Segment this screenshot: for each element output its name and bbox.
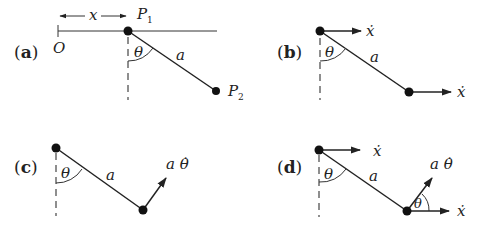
origin-label: O xyxy=(53,39,65,57)
top-velocity-label: ẋ xyxy=(373,142,382,160)
bottom-theta-arc xyxy=(422,194,429,211)
mass-bottom xyxy=(139,206,148,215)
length-label: a xyxy=(370,48,379,66)
bottom-x-velocity-label: ẋ xyxy=(457,202,466,220)
panel-a-label: (a) xyxy=(14,42,38,62)
panel-c-label: (c) xyxy=(14,157,38,177)
theta-label: θ xyxy=(324,165,333,183)
mass-bottom xyxy=(403,207,412,216)
mass-top xyxy=(315,146,324,155)
rod xyxy=(128,31,216,91)
panel-d-label: (d) xyxy=(277,157,302,177)
p1-label: P1 xyxy=(136,5,153,25)
p2-label: P2 xyxy=(227,82,244,102)
mass-bottom xyxy=(405,88,414,97)
rotational-velocity-arrow xyxy=(143,178,166,210)
rotational-velocity-label: a θ̇ xyxy=(166,155,189,173)
mass-p2 xyxy=(212,87,220,95)
mass-top xyxy=(316,27,325,36)
length-label: a xyxy=(176,46,185,64)
length-label: a xyxy=(106,166,115,184)
panel-c: (c) θ a a θ̇ xyxy=(14,144,189,217)
bottom-theta-label: θ xyxy=(414,196,422,211)
x-label: x xyxy=(89,6,98,24)
theta-label: θ xyxy=(134,43,143,61)
panel-a: (a) O x P1 θ a P2 xyxy=(14,5,244,102)
top-velocity-label: ẋ xyxy=(366,22,375,40)
rotational-velocity-label: a θ̇ xyxy=(430,155,453,173)
mass-top xyxy=(52,144,61,153)
panel-b: (b) θ a ẋ ẋ xyxy=(277,22,466,101)
theta-label: θ xyxy=(325,43,334,61)
theta-label: θ xyxy=(61,164,70,182)
pendulum-figure: (a) O x P1 θ a P2 (b) θ a ẋ ẋ xyxy=(0,0,479,226)
mass-p1 xyxy=(124,27,133,36)
panel-d: (d) θ a ẋ a θ̇ θ ẋ xyxy=(277,142,466,220)
bottom-velocity-label: ẋ xyxy=(457,83,466,101)
panel-b-label: (b) xyxy=(277,42,302,62)
rod xyxy=(320,31,409,92)
length-label: a xyxy=(369,167,378,185)
